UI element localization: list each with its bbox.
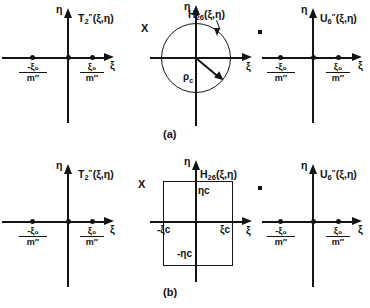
function-label-u6-args: (ξ,η) [336,12,357,24]
function-label-u6-base: U [320,12,328,24]
panel-a-middle: ξ η ρc H26(ξ,η) [150,0,260,135]
function-label-t2-args: (ξ,η) [93,12,114,24]
rect-label-bottom-text: -ηc [177,248,192,259]
function-label-t2-args: (ξ,η) [93,168,114,180]
point-label-positive: ξ₀ m″ [326,226,350,247]
y-axis-arrowhead [309,8,317,18]
y-axis-arrowhead [192,160,200,170]
point-label-positive-numerator: ξ₀ [326,226,350,237]
point-label-negative-numerator: -ξ₀ [267,226,295,237]
data-point-positive [336,55,341,60]
rect-label-left: -ξc [157,225,170,235]
y-axis-label: η [56,4,62,15]
y-axis-label: η [301,160,307,171]
operator-multiply-b: X [138,179,145,190]
point-label-negative: -ξ₀ m″ [19,226,47,247]
radius-label-subscript: c [189,77,193,84]
point-label-positive-denominator: m″ [80,73,104,83]
y-axis-arrowhead [309,164,317,174]
operator-equals-b: = [256,182,261,191]
origin-point [311,55,316,60]
point-label-negative: -ξ₀ m″ [267,226,295,247]
figure-container: ξ η -ξ₀ m″ ξ₀ m″ T2″(ξ,η) X [0,0,370,308]
figure-row-b: ξ η -ξ₀ m″ ξ₀ m″ T2″(ξ,η) X [0,155,370,308]
point-label-negative: -ξ₀ m″ [19,62,47,83]
point-label-positive-numerator: ξ₀ [80,226,104,237]
function-label-u6-base: U [320,168,328,180]
function-label-t2: T2″(ξ,η) [78,13,114,26]
h26-pointer-head [214,28,220,36]
data-point-negative [30,55,35,60]
point-label-negative-numerator: -ξ₀ [19,226,47,237]
point-label-negative-numerator: -ξ₀ [19,62,47,73]
point-label-negative-denominator: m″ [19,73,47,83]
point-label-positive-denominator: m″ [326,73,350,83]
function-label-h26: H26(ξ,η) [200,169,237,182]
y-axis-line [67,173,69,287]
origin-point [66,55,71,60]
x-axis-label: ξ [110,60,115,71]
rect-label-right-text: ξc [220,224,230,235]
y-axis-line [67,17,69,123]
rect-label-bottom: -ηc [177,249,192,259]
function-label-u6: U6″(ξ,η) [320,169,357,182]
origin-point [311,219,316,224]
y-axis-arrowhead [64,8,72,18]
function-label-h26-base: H [200,168,208,180]
x-axis-label: ξ [110,224,115,235]
function-label-h26: H26(ξ,η) [188,9,225,22]
data-point-negative [278,219,283,224]
x-axis-label: ξ [246,61,251,72]
caption-a: (a) [163,128,176,140]
operator-equals-a: = [256,26,261,35]
data-point-positive [90,55,95,60]
y-axis-label: η [301,4,307,15]
point-label-positive-numerator: ξ₀ [80,62,104,73]
panel-a-left: ξ η -ξ₀ m″ ξ₀ m″ T2″(ξ,η) [0,0,130,130]
rect-label-left-text: -ξc [157,224,170,235]
y-axis-label: η [184,156,190,167]
point-label-negative-denominator: m″ [267,73,295,83]
data-point-positive [336,219,341,224]
function-label-t2: T2″(ξ,η) [78,169,114,182]
data-point-negative [30,219,35,224]
data-point-positive [90,219,95,224]
x-axis-label: ξ [358,60,363,71]
rect-label-right: ξc [220,225,230,235]
rect-label-top: ηc [198,186,210,196]
y-axis-arrowhead [64,164,72,174]
y-axis-line [312,17,314,123]
function-label-h26-args: (ξ,η) [216,168,237,180]
point-label-positive: ξ₀ m″ [80,62,104,83]
y-axis-label: η [56,160,62,171]
panel-a-right: ξ η -ξ₀ m″ ξ₀ m″ U6″(ξ,η) [262,0,370,130]
point-label-positive: ξ₀ m″ [326,62,350,83]
point-label-negative: -ξ₀ m″ [267,62,295,83]
point-label-positive-denominator: m″ [326,237,350,247]
point-label-positive-numerator: ξ₀ [326,62,350,73]
point-label-negative-denominator: m″ [267,237,295,247]
point-label-positive-denominator: m″ [80,237,104,247]
point-label-negative-denominator: m″ [19,237,47,247]
figure-row-a: ξ η -ξ₀ m″ ξ₀ m″ T2″(ξ,η) X [0,0,370,150]
function-label-h26-base: H [188,8,196,20]
panel-b-middle: ξ η ηc -ηc -ξc ξc H26(ξ,η) [150,155,262,295]
function-label-u6-args: (ξ,η) [336,168,357,180]
origin-point [66,219,71,224]
function-label-h26-subscript: 26 [196,13,204,22]
operator-multiply-a: X [141,23,148,34]
data-point-negative [278,55,283,60]
function-label-h26-subscript: 26 [208,173,216,182]
y-axis-line [312,173,314,287]
caption-b: (b) [163,286,177,298]
panel-b-left: ξ η -ξ₀ m″ ξ₀ m″ T2″(ξ,η) [0,155,130,290]
panel-b-right: ξ η -ξ₀ m″ ξ₀ m″ U6″(ξ,η) [262,155,370,290]
function-label-h26-args: (ξ,η) [204,8,225,20]
function-label-u6: U6″(ξ,η) [320,13,357,26]
x-axis-label: ξ [358,224,363,235]
x-axis-label: ξ [246,225,251,236]
point-label-positive: ξ₀ m″ [80,226,104,247]
point-label-negative-numerator: -ξ₀ [267,62,295,73]
rect-label-top-text: ηc [198,185,210,196]
radius-label: ρc [183,72,193,84]
